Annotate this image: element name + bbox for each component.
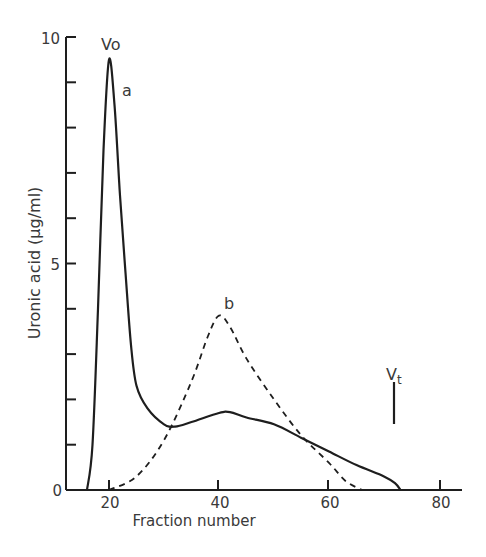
- x-tick-label-60: 60: [320, 494, 339, 512]
- x-tick-label-40: 40: [210, 494, 229, 512]
- y-tick-label-5: 5: [50, 256, 60, 274]
- y-tick-label-10: 10: [41, 30, 60, 48]
- curve-b-label: b: [224, 294, 234, 313]
- curve-a-solid-line: [87, 58, 401, 490]
- curve-b-dashed-line: [109, 315, 362, 490]
- curve-a-label: a: [122, 81, 132, 100]
- x-tick-label-20: 20: [100, 494, 119, 512]
- x-axis-label: Fraction number: [132, 512, 256, 530]
- y-tick-label-0: 0: [52, 482, 62, 500]
- y-axis-label: Uronic acid (µg/ml): [25, 187, 44, 340]
- y-axis: 10 5 0 Uronic acid (µg/ml): [25, 30, 76, 500]
- vo-label: Vo: [101, 35, 121, 54]
- x-axis: 20 40 60 80 Fraction number: [66, 480, 462, 530]
- x-tick-label-80: 80: [431, 494, 450, 512]
- chromatography-chart: 10 5 0 Uronic acid (µg/ml) 20 40 60 80 F…: [0, 0, 486, 557]
